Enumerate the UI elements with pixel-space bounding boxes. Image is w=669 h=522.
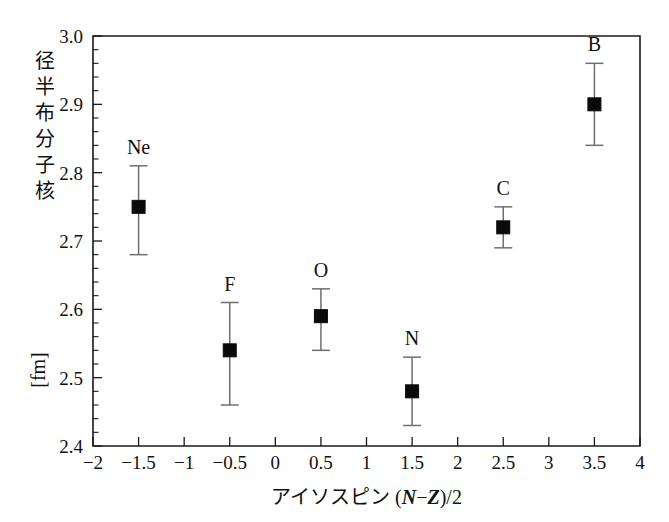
errorbar-chart: 2.42.52.62.72.82.93.0 −2−1.5−1−0.500.511… [0, 0, 669, 522]
y-tick-label: 2.9 [59, 94, 83, 115]
y-axis-title-char: 径 [35, 50, 55, 72]
data-point-marker [223, 344, 236, 357]
x-tick-label: 3.5 [583, 452, 607, 473]
x-tick-label: −2 [83, 452, 103, 473]
x-tick-label: 1 [362, 452, 372, 473]
y-axis-unit: [fm] [27, 352, 49, 388]
data-point-marker [406, 385, 419, 398]
data-point-label: N [405, 327, 419, 349]
data-point-marker [132, 200, 145, 213]
y-tick-label: 2.5 [59, 368, 83, 389]
x-tick-label: 1.5 [400, 452, 424, 473]
y-axis-title-char: 子 [35, 154, 55, 176]
data-point-label: F [224, 273, 235, 295]
chart-background [0, 0, 669, 522]
y-axis-title-char: 半 [35, 76, 55, 98]
x-tick-label: 4 [635, 452, 645, 473]
y-axis-title-char: 布 [35, 102, 55, 124]
x-tick-label: −1 [174, 452, 194, 473]
x-tick-label: −0.5 [213, 452, 247, 473]
y-tick-label: 3.0 [59, 26, 83, 47]
y-axis-title-char: 分 [35, 128, 55, 150]
data-point-marker [497, 221, 510, 234]
x-tick-label: −1.5 [121, 452, 155, 473]
y-tick-label: 2.6 [59, 299, 83, 320]
data-point-label: C [497, 177, 510, 199]
data-point-marker [314, 310, 327, 323]
data-point-label: B [588, 33, 601, 55]
x-axis-title-text: アイソスピン (N−Z)/2 [271, 486, 462, 509]
data-point-label: Ne [127, 136, 150, 158]
data-point-label: O [314, 259, 328, 281]
data-point-marker [588, 98, 601, 111]
x-tick-label: 3 [544, 452, 554, 473]
x-tick-label: 0 [271, 452, 281, 473]
chart-figure: 2.42.52.62.72.82.93.0 −2−1.5−1−0.500.511… [0, 0, 669, 522]
y-axis-title-char: 核 [35, 180, 55, 202]
x-axis-title: アイソスピン (N−Z)/2 [271, 486, 462, 509]
x-tick-label: 2.5 [491, 452, 515, 473]
x-tick-label: 0.5 [309, 452, 333, 473]
y-tick-label: 2.8 [59, 163, 83, 184]
y-tick-label: 2.4 [59, 436, 83, 457]
x-tick-label: 2 [453, 452, 463, 473]
y-tick-label: 2.7 [59, 231, 83, 252]
